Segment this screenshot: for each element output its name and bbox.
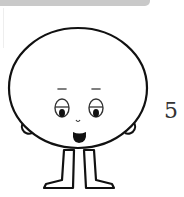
right-eye-icon [89,99,103,117]
left-leg [44,150,74,188]
legs [44,150,114,188]
head [9,28,147,148]
cartoon-character [0,0,184,197]
right-leg [84,150,114,188]
number-label: 5 [164,100,178,122]
left-eye-icon [55,99,69,117]
